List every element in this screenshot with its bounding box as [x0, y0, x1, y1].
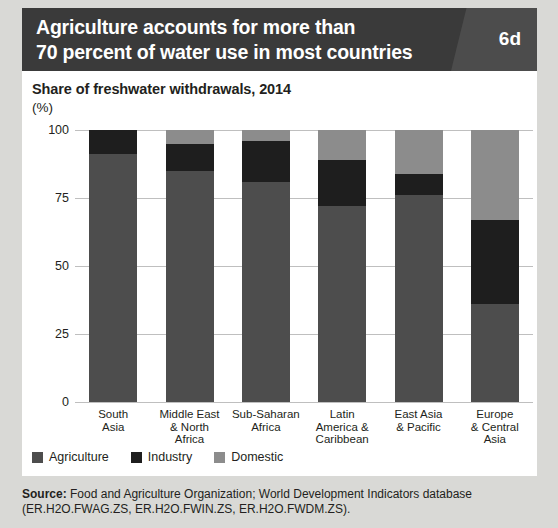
legend-label: Industry	[148, 450, 192, 464]
y-gridline	[75, 402, 533, 403]
page-title: Agriculture accounts for more than 70 pe…	[36, 15, 436, 65]
title-line-1: Agriculture accounts for more than	[36, 16, 355, 38]
y-tick-label: 50	[55, 259, 69, 273]
bar-column: Europe& CentralAsia	[471, 130, 519, 402]
bar-segment-agriculture	[395, 195, 443, 402]
chart-legend: AgricultureIndustryDomestic	[32, 450, 305, 464]
legend-swatch-icon	[131, 452, 142, 463]
chart-card: Share of freshwater withdrawals, 2014 (%…	[22, 71, 537, 476]
infographic-page: Agriculture accounts for more than 70 pe…	[0, 0, 558, 528]
y-gridline	[75, 130, 533, 131]
y-gridline	[75, 334, 533, 335]
legend-swatch-icon	[214, 452, 225, 463]
legend-item-industry[interactable]: Industry	[131, 450, 192, 464]
legend-swatch-icon	[32, 452, 43, 463]
y-tick-label: 100	[48, 123, 69, 137]
bar-stack	[166, 130, 214, 402]
source-note: Source: Food and Agriculture Organizatio…	[22, 487, 547, 516]
x-tick-label-line: Europe	[443, 408, 547, 421]
x-tick-label-line: Asia	[443, 433, 547, 446]
plot-area: 0255075100SouthAsiaMiddle East& NorthAfr…	[55, 130, 533, 402]
legend-label: Domestic	[231, 450, 283, 464]
x-tick-label-line: Caribbean	[290, 433, 394, 446]
bar-segment-agriculture	[471, 304, 519, 402]
bar-segment-agriculture	[89, 154, 137, 402]
bar-column: LatinAmerica &Caribbean	[318, 130, 366, 402]
bar-segment-industry	[166, 144, 214, 171]
x-tick-label-line: Africa	[138, 433, 242, 446]
title-line-2: 70 percent of water use in most countrie…	[36, 40, 436, 65]
y-axis-unit-label: (%)	[32, 100, 53, 115]
bar-column: Middle East& NorthAfrica	[166, 130, 214, 402]
bar-stack	[471, 130, 519, 402]
bar-segment-agriculture	[166, 171, 214, 402]
legend-item-agriculture[interactable]: Agriculture	[32, 450, 109, 464]
bar-segment-domestic	[395, 130, 443, 174]
bar-stack	[395, 130, 443, 402]
bar-segment-industry	[318, 160, 366, 206]
figure-badge-panel	[451, 8, 537, 71]
bar-segment-industry	[242, 141, 290, 182]
bar-stack	[89, 130, 137, 402]
source-label: Source:	[22, 487, 67, 501]
bar-stack	[242, 130, 290, 402]
bar-segment-industry	[89, 130, 137, 154]
header-banner: Agriculture accounts for more than 70 pe…	[22, 8, 537, 71]
x-tick-label-line: & Central	[443, 421, 547, 434]
x-tick-label: Europe& CentralAsia	[443, 408, 547, 446]
bar-stack	[318, 130, 366, 402]
bar-segment-industry	[395, 174, 443, 196]
y-gridline	[75, 198, 533, 199]
bar-segment-domestic	[166, 130, 214, 144]
chart-title: Share of freshwater withdrawals, 2014	[32, 81, 291, 97]
bar-column: Sub-SaharanAfrica	[242, 130, 290, 402]
bar-segment-domestic	[242, 130, 290, 141]
y-tick-label: 25	[55, 327, 69, 341]
legend-item-domestic[interactable]: Domestic	[214, 450, 283, 464]
y-tick-label: 0	[62, 395, 69, 409]
bar-column: East Asia& Pacific	[395, 130, 443, 402]
bar-segment-domestic	[471, 130, 519, 220]
bar-column: SouthAsia	[89, 130, 137, 402]
figure-badge-label: 6d	[499, 28, 521, 50]
source-text: Food and Agriculture Organization; World…	[22, 487, 472, 516]
bar-segment-agriculture	[242, 182, 290, 402]
bar-segment-industry	[471, 220, 519, 304]
y-gridline	[75, 266, 533, 267]
y-tick-label: 75	[55, 191, 69, 205]
bar-segment-agriculture	[318, 206, 366, 402]
bar-segment-domestic	[318, 130, 366, 160]
legend-label: Agriculture	[49, 450, 109, 464]
